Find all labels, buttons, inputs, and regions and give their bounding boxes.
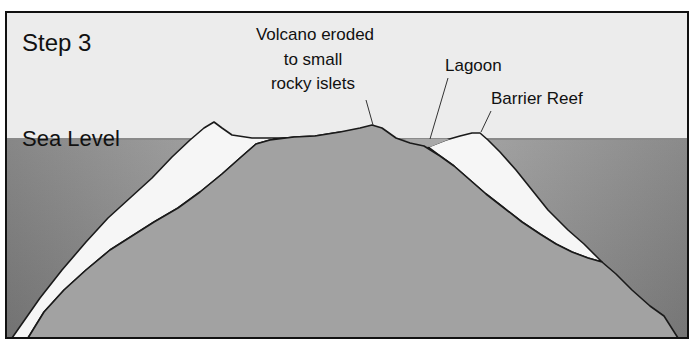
atoll-formation-diagram: Step 3 Sea Level Volcano eroded to small… (0, 0, 692, 353)
lagoon-label: Lagoon (445, 56, 502, 75)
barrier-reef-label: Barrier Reef (491, 89, 583, 108)
volcano-label-line2: to small (284, 50, 343, 69)
volcano-label-line1: Volcano eroded (256, 25, 374, 44)
step-title: Step 3 (22, 29, 91, 56)
sea-level-label: Sea Level (22, 126, 120, 151)
volcano-label-line3: rocky islets (271, 74, 355, 93)
